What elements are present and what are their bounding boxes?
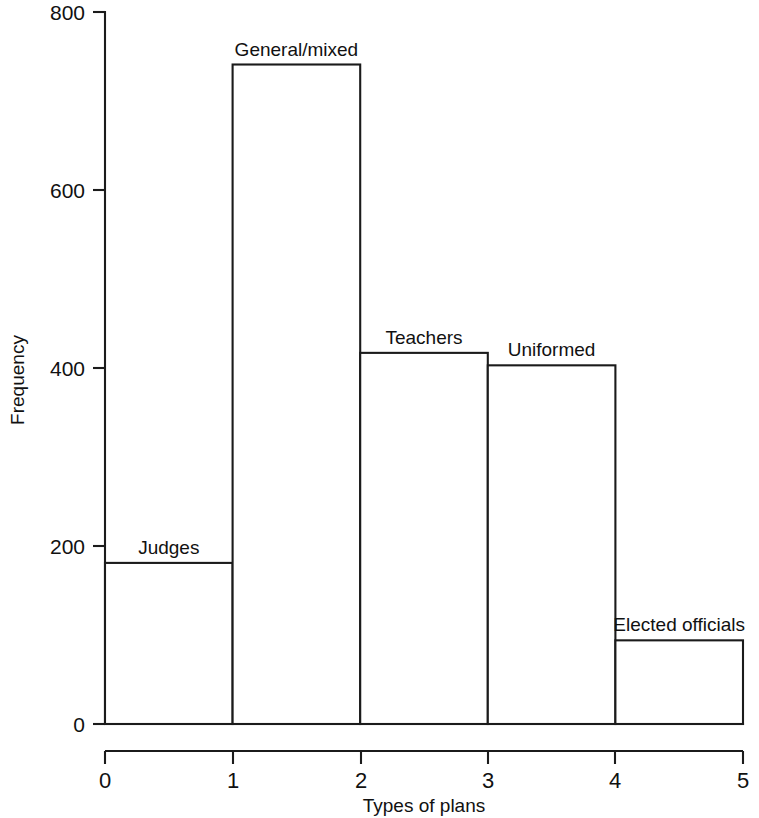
bar-label-judges: Judges — [138, 537, 199, 558]
bar-elected-officials — [615, 640, 743, 724]
y-tick-label-400: 400 — [50, 357, 85, 380]
y-axis-title: Frequency — [7, 335, 28, 425]
x-tick-label-3: 3 — [482, 768, 494, 793]
x-tick-label-2: 2 — [355, 768, 367, 793]
y-tick-label-800: 800 — [50, 1, 85, 24]
bar-label-general-mixed: General/mixed — [235, 39, 359, 60]
bar-general-mixed — [233, 65, 361, 724]
histogram-figure: 800 600 400 200 0 Frequency Judges Gener… — [0, 0, 759, 818]
x-axis-title: Types of plans — [363, 795, 486, 816]
y-tick-label-600: 600 — [50, 179, 85, 202]
y-axis-tick-labels: 800 600 400 200 0 — [50, 1, 85, 736]
bar-label-elected-officials: Elected officials — [613, 614, 745, 635]
bar-label-uniformed: Uniformed — [508, 339, 596, 360]
x-tick-label-0: 0 — [99, 768, 111, 793]
y-axis-ticks — [93, 12, 105, 724]
x-tick-label-5: 5 — [737, 768, 749, 793]
x-axis-tick-labels: 0 1 2 3 4 5 — [99, 768, 749, 793]
x-axis-ruler — [105, 751, 743, 764]
bar-label-teachers: Teachers — [385, 327, 462, 348]
x-tick-label-1: 1 — [227, 768, 239, 793]
y-tick-label-0: 0 — [73, 713, 85, 736]
bar-teachers — [360, 353, 488, 724]
x-tick-label-4: 4 — [609, 768, 621, 793]
y-tick-label-200: 200 — [50, 535, 85, 558]
chart-canvas: 800 600 400 200 0 Frequency Judges Gener… — [0, 0, 759, 818]
bar-judges — [105, 563, 233, 724]
bar-uniformed — [488, 365, 616, 724]
